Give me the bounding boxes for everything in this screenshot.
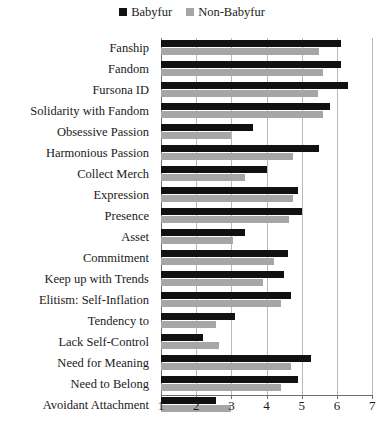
chart-row: Need to Belong xyxy=(0,374,384,395)
x-tick-label-1: 1 xyxy=(151,399,171,412)
category-label: Presence xyxy=(0,210,155,223)
chart-row: Obsessive Passion xyxy=(0,122,384,143)
bar-non-babyfur xyxy=(161,153,293,160)
category-label: Fandom xyxy=(0,63,155,76)
bar-babyfur xyxy=(161,355,311,362)
chart-row: Presence xyxy=(0,206,384,227)
category-label: Lack Self-Control xyxy=(0,336,155,349)
chart-row: Keep up with Trends xyxy=(0,269,384,290)
chart-row: Fursona ID xyxy=(0,80,384,101)
x-tick-label-7: 7 xyxy=(362,399,382,412)
category-label: Collect Merch xyxy=(0,168,155,181)
category-label: Obsessive Passion xyxy=(0,126,155,139)
bar-group xyxy=(155,80,384,101)
bar-group xyxy=(155,227,384,248)
bar-non-babyfur xyxy=(161,321,216,328)
bar-group xyxy=(155,290,384,311)
chart-row: Commitment xyxy=(0,248,384,269)
category-label: Need to Belong xyxy=(0,378,155,391)
bar-group xyxy=(155,374,384,395)
legend-entry-non-babyfur: Non-Babyfur xyxy=(186,6,265,19)
category-label: Solidarity with Fandom xyxy=(0,105,155,118)
legend-label-non-babyfur: Non-Babyfur xyxy=(198,6,265,19)
x-tick-label-4: 4 xyxy=(257,399,277,412)
x-tick-label-5: 5 xyxy=(292,399,312,412)
bar-babyfur xyxy=(161,124,253,131)
x-tick-label-2: 2 xyxy=(186,399,206,412)
bar-group xyxy=(155,164,384,185)
bar-group xyxy=(155,332,384,353)
bar-non-babyfur xyxy=(161,132,231,139)
chart-row: Elitism: Self-Inflation xyxy=(0,290,384,311)
bar-non-babyfur xyxy=(161,363,291,370)
bar-non-babyfur xyxy=(161,384,281,391)
bar-non-babyfur xyxy=(161,258,274,265)
bar-non-babyfur xyxy=(161,174,245,181)
bar-group xyxy=(155,143,384,164)
legend-entry-babyfur: Babyfur xyxy=(119,6,172,19)
chart-row: Need for Meaning xyxy=(0,353,384,374)
chart-row: Asset xyxy=(0,227,384,248)
bar-non-babyfur xyxy=(161,300,281,307)
bar-babyfur xyxy=(161,166,267,173)
bar-babyfur xyxy=(161,229,245,236)
bar-non-babyfur xyxy=(161,90,318,97)
category-label: Fanship xyxy=(0,42,155,55)
bar-non-babyfur xyxy=(161,342,219,349)
bar-babyfur xyxy=(161,103,330,110)
bar-group xyxy=(155,353,384,374)
category-label: Commitment xyxy=(0,252,155,265)
bar-babyfur xyxy=(161,208,302,215)
bar-non-babyfur xyxy=(161,111,323,118)
chart-row: Solidarity with Fandom xyxy=(0,101,384,122)
bar-non-babyfur xyxy=(161,69,323,76)
chart-row: Collect Merch xyxy=(0,164,384,185)
chart-row: Fandom xyxy=(0,59,384,80)
bar-group xyxy=(155,311,384,332)
bar-babyfur xyxy=(161,376,298,383)
chart-row: Expression xyxy=(0,185,384,206)
bar-non-babyfur xyxy=(161,279,263,286)
chart-row: Fanship xyxy=(0,38,384,59)
bar-group xyxy=(155,59,384,80)
x-axis-tick-labels: 1234567 xyxy=(0,399,384,419)
bar-non-babyfur xyxy=(161,48,319,55)
chart-row: Lack Self-Control xyxy=(0,332,384,353)
chart-row: Harmonious Passion xyxy=(0,143,384,164)
bar-group xyxy=(155,38,384,59)
bar-group xyxy=(155,269,384,290)
x-tick-label-3: 3 xyxy=(221,399,241,412)
bar-babyfur xyxy=(161,61,341,68)
bar-group xyxy=(155,185,384,206)
bar-non-babyfur xyxy=(161,195,293,202)
bar-babyfur xyxy=(161,271,284,278)
bar-babyfur xyxy=(161,187,298,194)
bar-group xyxy=(155,122,384,143)
category-label: Need for Meaning xyxy=(0,357,155,370)
category-label: Elitism: Self-Inflation xyxy=(0,294,155,307)
bar-babyfur xyxy=(161,82,348,89)
bar-babyfur xyxy=(161,292,291,299)
chart-legend: Babyfur Non-Babyfur xyxy=(0,2,384,22)
category-label: Asset xyxy=(0,231,155,244)
category-label: Keep up with Trends xyxy=(0,273,155,286)
bar-babyfur xyxy=(161,250,288,257)
bar-babyfur xyxy=(161,145,319,152)
bar-group xyxy=(155,206,384,227)
x-tick-label-6: 6 xyxy=(327,399,347,412)
bar-chart: Babyfur Non-Babyfur FanshipFandomFursona… xyxy=(0,0,384,433)
chart-row: Tendency to xyxy=(0,311,384,332)
square-marker-icon xyxy=(186,8,194,16)
bar-non-babyfur xyxy=(161,216,289,223)
bar-babyfur xyxy=(161,40,341,47)
category-label: Harmonious Passion xyxy=(0,147,155,160)
bar-babyfur xyxy=(161,334,203,341)
category-label: Fursona ID xyxy=(0,84,155,97)
bar-group xyxy=(155,248,384,269)
bar-non-babyfur xyxy=(161,237,233,244)
bar-rows: FanshipFandomFursona IDSolidarity with F… xyxy=(0,38,384,395)
category-label: Tendency to xyxy=(0,315,155,328)
legend-label-babyfur: Babyfur xyxy=(131,6,172,19)
category-label: Expression xyxy=(0,189,155,202)
plot-area: FanshipFandomFursona IDSolidarity with F… xyxy=(0,38,384,395)
